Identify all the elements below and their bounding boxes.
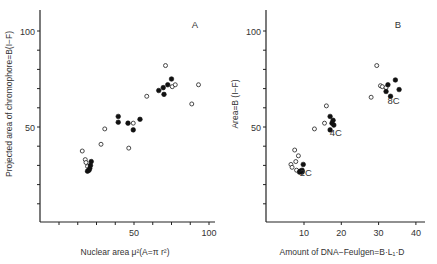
data-point-open <box>173 83 177 87</box>
y-axis-label: Area=B (I−F) <box>230 79 240 128</box>
panel-label: B <box>395 19 401 30</box>
data-point-filled <box>131 128 136 133</box>
y-tick-label: 100 <box>20 27 35 37</box>
data-point-open <box>323 121 327 125</box>
data-point-open <box>369 95 373 99</box>
x-tick-label: 30 <box>374 228 384 238</box>
data-point-filled <box>393 78 398 83</box>
filled-points <box>297 78 401 175</box>
data-point-open <box>103 127 107 131</box>
open-points <box>80 64 200 169</box>
data-point-open <box>164 64 168 68</box>
cluster-annotation: 8C <box>387 95 399 106</box>
open-points <box>289 64 388 173</box>
data-point-open <box>127 146 131 150</box>
data-point-filled <box>165 82 170 87</box>
data-point-filled <box>116 114 121 119</box>
cluster-annotation: 2C <box>300 167 312 178</box>
data-point-open <box>375 64 379 68</box>
figure: 5010050100Nuclear area μ²(A=π r²)Project… <box>0 0 437 264</box>
data-point-filled <box>386 82 391 87</box>
data-point-filled <box>89 159 94 164</box>
data-point-filled <box>156 88 161 93</box>
data-point-filled <box>138 117 143 122</box>
data-point-filled <box>169 77 174 82</box>
data-point-open <box>296 154 300 158</box>
x-tick-label: 50 <box>129 228 139 238</box>
panel-b-scatter: 5010010203040Amount of DNA−Feulgen=B·L₁·… <box>230 10 425 257</box>
data-point-open <box>293 148 297 152</box>
data-point-open <box>145 94 149 98</box>
data-point-filled <box>161 85 166 90</box>
data-point-open <box>99 142 103 146</box>
panel-label: A <box>192 19 199 30</box>
data-point-filled <box>384 89 389 94</box>
data-point-open <box>131 121 135 125</box>
data-point-filled <box>397 87 402 92</box>
y-axis-label: Projected area of chromophore=B(I−F) <box>4 31 14 177</box>
data-point-open <box>197 83 201 87</box>
data-point-open <box>294 160 298 164</box>
data-point-open <box>312 127 316 131</box>
x-tick-label: 100 <box>201 228 216 238</box>
data-point-open <box>190 102 194 106</box>
data-point-open <box>80 149 84 153</box>
data-point-filled <box>126 121 131 126</box>
y-tick-label: 50 <box>25 123 35 133</box>
x-axis-label: Nuclear area μ²(A=π r²) <box>81 247 170 257</box>
data-point-open <box>290 165 294 169</box>
x-tick-label: 10 <box>299 228 309 238</box>
data-point-filled <box>116 120 121 125</box>
cluster-annotation: 4C <box>330 127 342 138</box>
data-point-open <box>324 104 328 108</box>
y-tick-label: 100 <box>246 27 261 37</box>
x-axis-label: Amount of DNA−Feulgen=B·L₁·D <box>280 247 405 257</box>
data-point-filled <box>328 114 333 119</box>
y-tick-label: 50 <box>251 123 261 133</box>
filled-points <box>85 77 174 174</box>
panel-a-scatter: 5010050100Nuclear area μ²(A=π r²)Project… <box>4 10 217 257</box>
x-tick-label: 20 <box>336 228 346 238</box>
x-tick-label: 40 <box>411 228 421 238</box>
data-point-filled <box>162 92 167 97</box>
